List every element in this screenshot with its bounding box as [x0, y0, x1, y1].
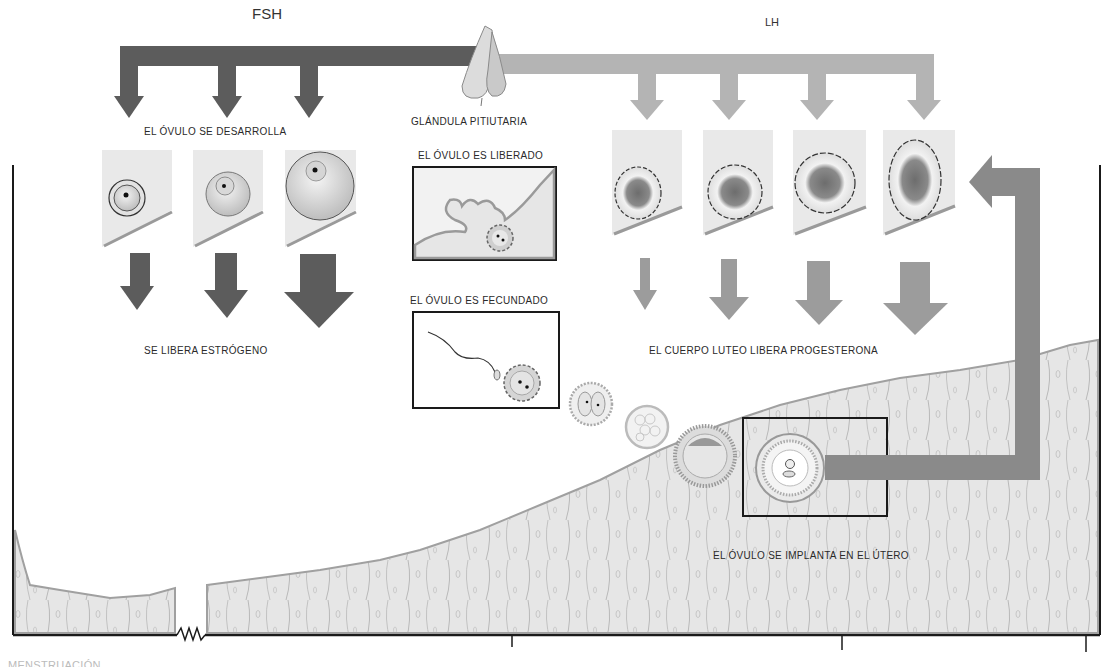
pituitary-gland-label: GLÁNDULA PITIUTARIA [411, 116, 527, 127]
corpus-luteum-panels [612, 130, 955, 235]
menstruation-label-partial: MENSTRUACIÓN [8, 659, 101, 667]
fsh-arrow-system [114, 46, 480, 118]
progesterone-arrows [633, 258, 948, 335]
follicle-panel-2 [193, 150, 263, 247]
estrogen-released-label: SE LIBERA ESTRÓGENO [144, 345, 268, 356]
corpus-luteum-progesterone-label: EL CUERPO LUTEO LIBERA PROGESTERONA [649, 345, 878, 356]
lh-label: LH [765, 16, 779, 28]
blastocyst-icon [675, 426, 735, 486]
implantation-label: EL ÓVULO SE IMPLANTA EN EL ÚTERO [713, 550, 909, 561]
estrogen-arrows [120, 253, 354, 328]
ovum-fertilized-label: EL ÓVULO ES FECUNDADO [410, 295, 548, 306]
morula-icon [626, 406, 668, 448]
corpus-luteum-panel-3 [793, 130, 866, 235]
menstrual-cycle-diagram [0, 0, 1112, 667]
ovulation-box [413, 167, 556, 260]
fertilization-box [413, 312, 559, 408]
ovum-develops-label: EL ÓVULO SE DESARROLLA [144, 126, 286, 137]
pituitary-gland-icon [462, 26, 506, 106]
follicle-panels [102, 150, 356, 247]
follicle-panel-1 [102, 150, 172, 247]
fsh-label: FSH [252, 5, 282, 22]
corpus-luteum-panel-4 [883, 130, 955, 235]
follicle-panel-3 [285, 150, 356, 247]
corpus-luteum-panel-1 [612, 130, 682, 235]
lh-arrow-system [480, 54, 941, 120]
corpus-luteum-panel-2 [703, 130, 773, 235]
ovum-released-label: EL ÓVULO ES LIBERADO [418, 150, 543, 161]
two-cell-embryo-icon [570, 383, 612, 425]
